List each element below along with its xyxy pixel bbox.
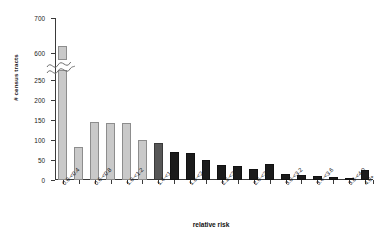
bar-series bbox=[55, 18, 373, 180]
x-axis-title: relative risk bbox=[0, 221, 382, 228]
y-axis-title: # census tracts bbox=[12, 35, 19, 121]
bar bbox=[90, 122, 99, 180]
y-tick-label: 250 bbox=[19, 77, 45, 84]
y-tick-label: 50 bbox=[19, 157, 45, 164]
y-tick: 100 bbox=[51, 140, 55, 141]
y-tick: 250 bbox=[51, 80, 55, 81]
bar bbox=[154, 143, 163, 180]
bar-chart: # census tracts 050100150200250600700 0.… bbox=[0, 0, 382, 237]
y-tick: 0 bbox=[51, 180, 55, 181]
y-tick-label: 100 bbox=[19, 137, 45, 144]
y-tick-label: 600 bbox=[19, 50, 45, 57]
x-tick bbox=[373, 180, 374, 184]
y-tick-label: 0 bbox=[19, 177, 45, 184]
y-tick: 200 bbox=[51, 100, 55, 101]
y-tick-label: 700 bbox=[19, 15, 45, 22]
y-tick: 150 bbox=[51, 120, 55, 121]
y-tick: 50 bbox=[51, 160, 55, 161]
y-tick-label: 200 bbox=[19, 97, 45, 104]
y-axis-line-upper bbox=[55, 18, 56, 60]
bar bbox=[58, 70, 67, 180]
y-tick-label: 150 bbox=[19, 117, 45, 124]
bar bbox=[122, 123, 131, 180]
bar-upper-segment bbox=[58, 46, 67, 60]
plot-area: 050100150200250600700 bbox=[55, 18, 373, 180]
